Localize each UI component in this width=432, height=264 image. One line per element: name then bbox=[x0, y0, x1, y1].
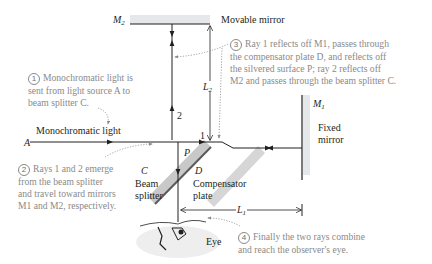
note-4: 4Finally the two rays combine and reach … bbox=[238, 231, 365, 256]
compensator-label-1: Compensator bbox=[193, 178, 246, 189]
callout-2-arrow bbox=[105, 144, 152, 157]
ray-1-path bbox=[176, 142, 302, 148]
note-2: 2Rays 1 and 2 emerge from the beam split… bbox=[18, 163, 116, 212]
m2-label: M2 bbox=[113, 14, 125, 25]
beam-splitter-label-2: splitter bbox=[135, 190, 163, 201]
fixed-mirror-label-1: Fixed bbox=[318, 122, 341, 133]
note-3: 3Ray 1 reflects off M1, passes through t… bbox=[230, 38, 396, 87]
callout-3-arrow-a bbox=[175, 44, 228, 57]
source-a-label: A bbox=[24, 137, 30, 148]
l1-label: L1 bbox=[236, 204, 247, 215]
l2-label: L2 bbox=[203, 81, 212, 92]
eye-label: Eye bbox=[206, 236, 222, 247]
fixed-mirror bbox=[302, 95, 310, 180]
fixed-mirror-label-2: mirror bbox=[318, 134, 344, 145]
note-1: 1Monochromatic light is sent from light … bbox=[28, 72, 133, 109]
d-label: D bbox=[195, 165, 202, 176]
callout-1-arrow bbox=[98, 108, 108, 124]
callout-3-arrow-b bbox=[219, 48, 222, 138]
m1-label: M1 bbox=[313, 98, 325, 109]
michelson-interferometer-diagram: M2 Movable mirror M1 Fixed mirror A Mono… bbox=[0, 0, 432, 264]
callout-4-arrow bbox=[208, 218, 240, 226]
ray-1-label: 1 bbox=[200, 130, 205, 141]
compensator-plate bbox=[207, 146, 265, 207]
point-p-label: P bbox=[184, 147, 190, 158]
beam-splitter-label-1: Beam bbox=[135, 178, 158, 189]
compensator-label-2: plate bbox=[193, 190, 212, 201]
ray-2-label: 2 bbox=[177, 110, 182, 121]
monochromatic-light-label: Monochromatic light bbox=[36, 125, 121, 136]
c-label: C bbox=[141, 165, 148, 176]
movable-mirror-label: Movable mirror bbox=[221, 14, 285, 25]
movable-mirror bbox=[130, 15, 210, 24]
